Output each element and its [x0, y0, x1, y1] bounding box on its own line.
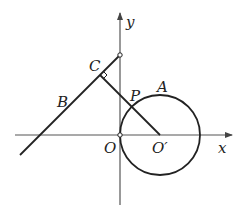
- label-a: A: [155, 78, 168, 96]
- geometry-diagram: y x C P A B O O′: [0, 0, 246, 214]
- x-axis-label: x: [218, 139, 227, 157]
- segment-o-prime-c: [100, 75, 160, 135]
- label-c: C: [89, 57, 101, 75]
- label-o-prime: O′: [152, 139, 168, 157]
- y-intercept-dot: [118, 53, 122, 57]
- origin-dot: [118, 133, 122, 137]
- label-p: P: [129, 87, 141, 105]
- y-axis-label: y: [125, 13, 135, 31]
- label-b: B: [56, 93, 68, 111]
- label-o: O: [104, 139, 116, 157]
